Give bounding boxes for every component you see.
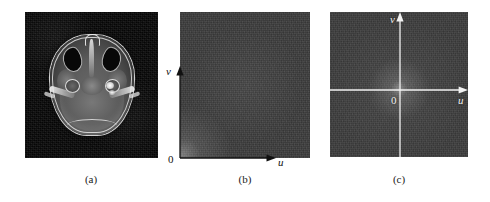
v-axis-label-c: v	[390, 14, 395, 25]
u-axis-arrowhead-b	[267, 154, 277, 161]
lesion-bright-spot-primary	[106, 82, 114, 89]
origin-label-b: 0	[168, 154, 174, 165]
brainstem-region	[81, 77, 103, 95]
caption-panel-a: (a)	[71, 174, 111, 185]
lesion-bright-spot-secondary	[109, 90, 115, 95]
panel-b-axes	[160, 60, 320, 170]
caption-panel-c: (c)	[379, 174, 419, 185]
panel-c-axes	[330, 12, 468, 157]
posterior-skull-line	[67, 119, 117, 132]
v-axis-arrowhead-b	[176, 66, 183, 76]
origin-label-c: 0	[391, 95, 397, 106]
u-axis-arrowhead-c	[459, 86, 468, 93]
nose-tip	[85, 34, 100, 46]
u-axis-label-c: u	[458, 95, 464, 106]
u-axis-label-b: u	[278, 157, 284, 168]
head-anatomy-group	[47, 33, 137, 137]
panel-c-spectrum-centered	[330, 12, 468, 157]
v-axis-arrowhead-c	[396, 12, 403, 21]
caption-panel-b: (b)	[225, 174, 265, 185]
mri-frame	[25, 12, 158, 158]
figure-row: v u 0 v u 0 (a) (b) (c)	[0, 0, 490, 202]
panel-a-mri-image	[25, 12, 158, 158]
v-axis-label-b: v	[166, 66, 171, 77]
